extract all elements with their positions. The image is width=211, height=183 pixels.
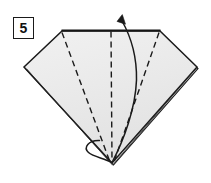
step-number-label: 5	[20, 21, 28, 35]
origami-step-diagram: 5	[0, 0, 211, 183]
fold-up-arrow-head	[117, 15, 126, 25]
step-number-badge: 5	[13, 17, 34, 39]
